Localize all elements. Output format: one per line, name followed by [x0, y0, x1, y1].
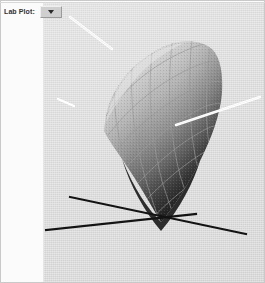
toolbar: Lab Plot: [4, 5, 62, 18]
window-top-rule [0, 2, 265, 3]
chevron-down-icon [48, 10, 54, 14]
sidebar-panel [1, 3, 44, 282]
axis-white-tick-left [58, 99, 74, 106]
lab-plot-label: Lab Plot: [4, 5, 40, 18]
lab-plot-dropdown[interactable] [40, 6, 62, 18]
surface-mesh [44, 3, 264, 282]
axis-black-2 [46, 214, 196, 230]
surface-dither [44, 3, 264, 282]
axis-white-upper-left-core [70, 17, 112, 49]
lab-plot-window: Lab Plot: [0, 0, 265, 283]
surface-plot-graphic[interactable] [44, 3, 264, 282]
plot-canvas[interactable] [44, 3, 264, 282]
sidebar-divider [43, 3, 44, 282]
